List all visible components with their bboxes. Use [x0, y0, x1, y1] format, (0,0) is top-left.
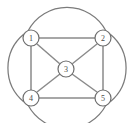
vertex-5: 5	[95, 90, 111, 106]
arc-edge-1-2-top	[28, 7, 106, 31]
vertex-3: 3	[58, 61, 74, 77]
vertex-1-label: 1	[29, 34, 33, 43]
edge-5-3	[72, 74, 97, 92]
vertex-2: 2	[95, 30, 111, 46]
vertex-3-label: 3	[64, 65, 68, 74]
graph-canvas: 1 2 3 4 5	[0, 0, 133, 123]
vertex-2-label: 2	[101, 34, 105, 43]
arc-edge-1-4-left	[8, 34, 24, 102]
edge-4-3	[37, 74, 60, 92]
edge-2-3	[72, 44, 97, 64]
vertex-4-label: 4	[29, 94, 33, 103]
edge-1-3	[37, 44, 60, 64]
graph-diagram: 1 2 3 4 5	[0, 0, 133, 123]
vertex-5-label: 5	[101, 94, 105, 103]
vertex-1: 1	[23, 30, 39, 46]
arc-edge-4-5-bottom	[28, 105, 106, 123]
arc-edge-2-5-right	[110, 34, 126, 102]
vertex-4: 4	[23, 90, 39, 106]
